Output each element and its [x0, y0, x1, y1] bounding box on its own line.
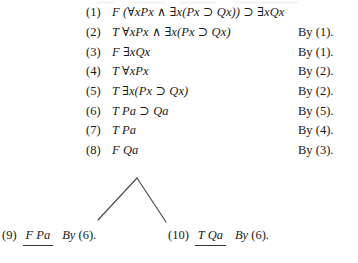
line-formula: T ∀xPx ∧ ∃x(Px ⊃ Qx) [112, 24, 298, 40]
line-number: (2) [86, 25, 112, 40]
by-word: By [62, 228, 75, 242]
line-formula: T ∀xPx [112, 63, 298, 79]
line-justification: By (5). [298, 104, 354, 119]
line-formula: T Pa [112, 123, 298, 138]
proof-line: (1) F (∀xPx ∧ ∃x(Px ⊃ Qx)) ⊃ ∃xQx [86, 4, 354, 24]
line-justification: By (6). [62, 228, 96, 243]
line-formula closed-branch-marker: F Pa [23, 228, 54, 246]
line-formula closed-branch-marker: T Qa [195, 228, 226, 246]
line-number: (9) [2, 228, 17, 243]
line-formula: F ∃xQx [112, 44, 298, 60]
branch-fork [0, 170, 358, 228]
by-reference: (6). [251, 228, 269, 242]
proof-line: (8) F Qa By (3). [86, 143, 354, 163]
line-number: (8) [86, 143, 112, 158]
line-number: (5) [86, 84, 112, 99]
proof-branch-line: (10) T Qa By (6). [168, 228, 269, 246]
line-formula: F Qa [112, 143, 298, 158]
proof-sheet: (1) F (∀xPx ∧ ∃x(Px ⊃ Qx)) ⊃ ∃xQx (2) T … [0, 0, 358, 263]
branch-line-right [137, 178, 166, 222]
branch-line-left [98, 178, 137, 220]
line-justification: By (4). [298, 123, 354, 138]
line-formula: T Pa ⊃ Qa [112, 103, 298, 119]
proof-line: (4) T ∀xPx By (2). [86, 63, 354, 83]
line-number: (6) [86, 104, 112, 119]
proof-line: (5) T ∃x(Px ⊃ Qx) By (2). [86, 83, 354, 103]
line-number: (3) [86, 45, 112, 60]
line-number: (10) [168, 228, 189, 243]
line-justification: By (2). [298, 64, 354, 79]
line-justification: By (3). [298, 143, 354, 158]
proof-branch-line: (9) F Pa By (6). [2, 228, 96, 246]
proof-line-list: (1) F (∀xPx ∧ ∃x(Px ⊃ Qx)) ⊃ ∃xQx (2) T … [86, 4, 354, 162]
line-formula: T ∃x(Px ⊃ Qx) [112, 83, 298, 99]
proof-line: (6) T Pa ⊃ Qa By (5). [86, 103, 354, 123]
line-number: (1) [86, 5, 112, 20]
proof-line: (7) T Pa By (4). [86, 123, 354, 143]
line-justification: By (1). [298, 45, 354, 60]
line-number: (4) [86, 64, 112, 79]
line-justification: By (1). [298, 25, 354, 40]
line-justification: By (6). [235, 228, 269, 243]
by-word: By [235, 228, 248, 242]
proof-line: (2) T ∀xPx ∧ ∃x(Px ⊃ Qx) By (1). [86, 24, 354, 44]
by-reference: (6). [79, 228, 97, 242]
line-formula: F (∀xPx ∧ ∃x(Px ⊃ Qx)) ⊃ ∃xQx [112, 4, 298, 20]
line-justification: By (2). [298, 84, 354, 99]
proof-line: (3) F ∃xQx By (1). [86, 44, 354, 64]
line-number: (7) [86, 123, 112, 138]
